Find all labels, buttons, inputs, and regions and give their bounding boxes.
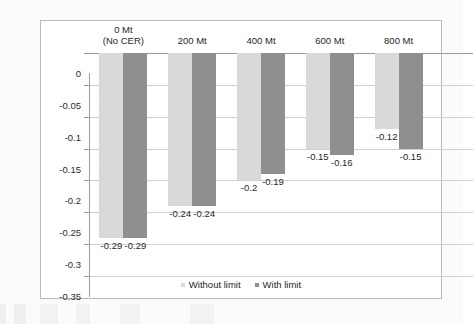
bar-0-1: [123, 53, 147, 238]
bar-0-0: [99, 53, 123, 238]
x-axis-label-1: 200 Mt: [178, 35, 207, 46]
y-tick-label: -0.2: [43, 195, 81, 206]
y-tick-label: -0.15: [43, 163, 81, 174]
legend-label: With limit: [263, 279, 302, 290]
bar-value-label-3-1: -0.16: [331, 157, 353, 168]
x-axis-label-2: 400 Mt: [246, 35, 275, 46]
x-axis-label-0: 0 Mt(No CER): [103, 24, 144, 46]
bar-value-label-0-1: -0.29: [125, 240, 147, 251]
bar-value-label-1-0: -0.24: [169, 208, 191, 219]
x-axis-label-3: 600 Mt: [315, 35, 344, 46]
bar-3-1: [330, 53, 354, 155]
bar-1-1: [192, 53, 216, 206]
legend-swatch-icon: [255, 283, 259, 287]
y-tick-label: -0.35: [43, 291, 81, 302]
bar-value-label-4-0: -0.12: [376, 131, 398, 142]
bar-4-1: [399, 53, 423, 149]
bar-3-0: [306, 53, 330, 149]
chart-legend: Without limitWith limit: [41, 279, 441, 290]
bar-value-label-0-0: -0.29: [101, 240, 123, 251]
y-tick-label: -0.1: [43, 131, 81, 142]
x-axis-label-4: 800 Mt: [384, 35, 413, 46]
bar-value-label-4-1: -0.15: [400, 151, 422, 162]
bar-4-0: [375, 53, 399, 129]
legend-swatch-icon: [181, 283, 185, 287]
legend-label: Without limit: [189, 279, 241, 290]
legend-item-0: Without limit: [181, 279, 241, 290]
y-tick-label: -0.25: [43, 227, 81, 238]
y-axis-line: [89, 73, 90, 297]
y-tick-label: -0.05: [43, 99, 81, 110]
bar-value-label-3-0: -0.15: [307, 151, 329, 162]
gridline--0.35: [89, 276, 473, 277]
scan-artifact: [0, 304, 463, 324]
chart-frame: 0-0.05-0.1-0.15-0.2-0.25-0.3-0.35 0 Mt(N…: [40, 20, 442, 299]
bar-2-0: [237, 53, 261, 180]
bar-value-label-2-0: -0.2: [241, 182, 257, 193]
bar-value-label-2-1: -0.19: [262, 176, 284, 187]
bar-value-label-1-1: -0.24: [193, 208, 215, 219]
bar-1-0: [168, 53, 192, 206]
y-tick-label: -0.3: [43, 259, 81, 270]
y-tick-0: [84, 53, 89, 54]
bar-2-1: [261, 53, 285, 174]
y-tick-label: 0: [43, 68, 81, 79]
gridline--0.3: [89, 244, 473, 245]
legend-item-1: With limit: [255, 279, 302, 290]
